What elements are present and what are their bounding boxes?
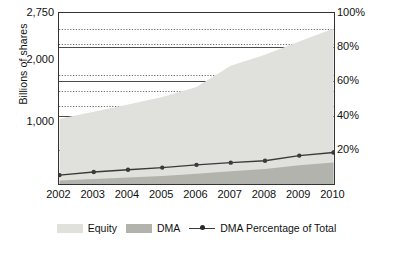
data-point-marker [126,168,130,172]
area-series-group [60,29,334,184]
plot-area [58,12,335,185]
legend-label: DMA Percentage of Total [220,223,336,234]
y-axis-right-tick: 60% [337,75,387,85]
y-axis-right-tick: 80% [337,41,387,51]
data-point-marker [160,165,164,169]
y-axis-right-ticks: 20%40%60%80%100% [337,0,389,200]
legend-label: Equity [88,223,117,234]
chart-svg [59,13,334,184]
legend-item: Equity [57,223,117,234]
chart-container: Billions of shares 1,0002,0002,750 20%40… [0,0,393,255]
y-axis-right-tick: 20% [337,144,387,154]
y-axis-left-tick: 2,750 [14,7,54,17]
chart-legend: EquityDMADMA Percentage of Total [0,220,393,236]
legend-label: DMA [157,223,180,234]
legend-item: DMA Percentage of Total [189,223,336,234]
legend-line-marker-icon [189,224,215,233]
area-series-equity [60,29,334,184]
y-axis-left-tick: 1,000 [14,116,54,126]
legend-swatch-icon [126,224,152,233]
data-point-marker [194,163,198,167]
data-point-marker [263,159,267,163]
y-axis-right-tick: 40% [337,110,387,120]
data-point-marker [297,153,301,157]
y-axis-right-tick: 100% [337,7,387,17]
x-axis-ticks: 200220032004200520062007200820092010 [58,188,333,204]
legend-item: DMA [126,223,180,234]
legend-swatch-icon [57,224,83,233]
y-axis-left-ticks: 1,0002,0002,750 [10,0,54,200]
x-axis-tick: 2010 [313,188,353,200]
data-point-marker [229,160,233,164]
data-point-marker [92,170,96,174]
y-axis-left-tick: 2,000 [14,54,54,64]
